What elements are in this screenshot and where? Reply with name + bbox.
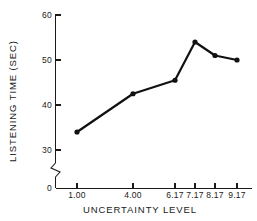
y-axis-title: LISTENING TIME (SEC) bbox=[7, 40, 18, 162]
y-tick-label-60: 60 bbox=[42, 10, 52, 20]
x-tick-label-2: 4.00 bbox=[124, 190, 142, 200]
chart-figure: 60 50 40 30 0 1.00 4.00 6.17 7.17 8.17 9… bbox=[0, 0, 257, 221]
x-tick-label-1: 1.00 bbox=[68, 190, 86, 200]
x-tick-label-6: 9.17 bbox=[228, 190, 246, 200]
y-tick-label-40: 40 bbox=[42, 100, 52, 110]
x-tick-label-4: 7.17 bbox=[186, 190, 204, 200]
x-axis-title: UNCERTAINTY LEVEL bbox=[83, 204, 197, 215]
x-tick-label-5: 8.17 bbox=[206, 190, 224, 200]
axis-break-icon bbox=[51, 163, 60, 177]
x-tick-label-3: 6.17 bbox=[166, 190, 184, 200]
data-point bbox=[212, 53, 217, 58]
line-chart: 60 50 40 30 0 1.00 4.00 6.17 7.17 8.17 9… bbox=[0, 0, 257, 221]
data-point bbox=[130, 91, 135, 96]
y-tick-label-0: 0 bbox=[47, 183, 52, 193]
data-point bbox=[172, 78, 177, 83]
y-tick-label-50: 50 bbox=[42, 55, 52, 65]
data-point bbox=[234, 57, 239, 62]
data-point bbox=[192, 39, 197, 44]
data-point bbox=[74, 129, 79, 134]
y-tick-label-30: 30 bbox=[42, 145, 52, 155]
